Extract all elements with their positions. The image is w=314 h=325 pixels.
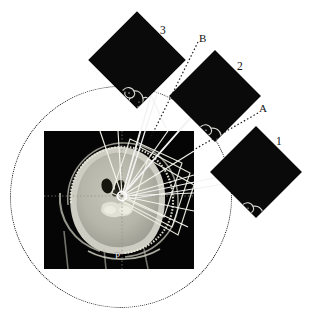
axial-ct-slice[interactable]: P [44,131,194,269]
angio-panel-2-label: 2 [237,61,243,72]
angio-panel-1-label: 1 [276,136,282,147]
angio-vessel-graphic-1 [224,185,288,217]
orientation-marker-posterior: P [115,252,120,261]
angio-panel-3-label: 3 [160,25,166,36]
reference-label-a: A [259,103,267,114]
reference-label-b: B [199,33,206,44]
ct-slice-graphic [44,131,194,269]
figure-canvas: P [0,0,314,325]
